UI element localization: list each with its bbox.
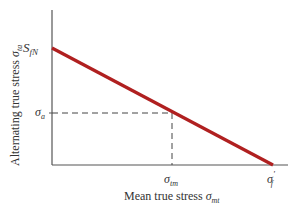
stress-diagram: SfN σa σtm σ'f Mean true stress σmt Alte… [0, 0, 295, 206]
sigma-a-label: σa [35, 105, 45, 121]
sigma-tm-label: σtm [164, 172, 178, 188]
fatigue-line [52, 48, 273, 165]
y-axis-title: Alternating true stress σta [8, 45, 24, 166]
x-axis-title: Mean true stress σmt [124, 189, 220, 205]
sigma-f-prime-label: σ'f [267, 169, 276, 188]
sfn-label: SfN [23, 40, 39, 57]
